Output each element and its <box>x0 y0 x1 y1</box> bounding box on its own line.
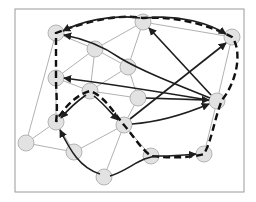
node-C <box>135 14 151 30</box>
graph-diagram <box>0 0 256 202</box>
node-F <box>120 59 136 75</box>
node-K <box>18 135 34 151</box>
node-O <box>196 146 212 162</box>
node-H <box>130 90 146 106</box>
graph-canvas <box>0 0 256 202</box>
node-I <box>209 93 225 109</box>
node-P <box>96 169 112 185</box>
